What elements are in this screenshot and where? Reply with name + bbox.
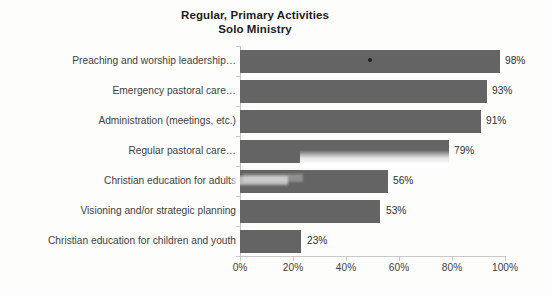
category-label: Emergency pastoral care… xyxy=(0,85,236,96)
x-axis-tick-label: 100% xyxy=(485,262,525,273)
bar-value-label: 93% xyxy=(492,85,512,96)
x-axis-tick xyxy=(399,257,400,261)
bar-value-label: 79% xyxy=(454,145,474,156)
x-axis-tick xyxy=(452,257,453,261)
bar-segment xyxy=(240,140,449,163)
bar-segment xyxy=(240,110,481,133)
x-axis-tick-label: 60% xyxy=(379,262,419,273)
category-label: Visioning and/or strategic planning xyxy=(0,205,236,216)
category-label: Christian education for children and you… xyxy=(0,235,236,246)
bar-segment xyxy=(240,200,380,223)
chart-container: Regular, Primary Activities Solo Ministr… xyxy=(0,0,552,296)
y-axis-tick xyxy=(236,76,240,77)
x-axis-tick-label: 0% xyxy=(220,262,260,273)
y-axis-tick xyxy=(236,46,240,47)
x-axis-tick xyxy=(346,257,347,261)
bar-value-label: 98% xyxy=(505,55,525,66)
y-axis-tick xyxy=(236,196,240,197)
bar-segment xyxy=(240,170,388,193)
scan-speck-artifact xyxy=(368,58,372,62)
x-axis-line xyxy=(240,256,506,257)
x-axis-tick-label: 80% xyxy=(432,262,472,273)
bar-value-label: 23% xyxy=(307,235,327,246)
bar-value-label: 91% xyxy=(486,115,506,126)
chart-title: Regular, Primary Activities Solo Ministr… xyxy=(0,8,510,36)
category-label: Christian education for adults xyxy=(0,175,236,186)
x-axis-tick-label: 20% xyxy=(273,262,313,273)
y-axis-tick xyxy=(236,226,240,227)
category-label: Preaching and worship leadership… xyxy=(0,55,236,66)
x-axis-tick xyxy=(293,257,294,261)
y-axis-tick xyxy=(236,166,240,167)
bar-segment xyxy=(240,230,301,253)
chart-title-line1: Regular, Primary Activities xyxy=(181,9,329,21)
chart-subtitle: Solo Ministry xyxy=(0,22,510,36)
y-axis-tick xyxy=(236,106,240,107)
category-label: Administration (meetings, etc.) xyxy=(0,115,236,126)
bar-value-label: 53% xyxy=(386,205,406,216)
bar-segment xyxy=(240,80,487,103)
y-axis-tick xyxy=(236,136,240,137)
x-axis-tick xyxy=(505,257,506,261)
x-axis-tick xyxy=(240,257,241,261)
category-label: Regular pastoral care… xyxy=(0,145,236,156)
bar-value-label: 56% xyxy=(393,175,413,186)
x-axis-tick-label: 40% xyxy=(326,262,366,273)
